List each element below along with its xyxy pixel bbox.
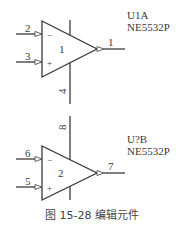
power-pin-number: 8 [56, 124, 68, 130]
plus-sign: + [47, 183, 52, 193]
part-number: 1 [59, 43, 65, 55]
figure-caption: 图 15-28 编辑元件 [0, 206, 184, 222]
minus-sign: − [47, 30, 52, 40]
part-name: NE5532P [127, 21, 170, 33]
minus-sign: − [47, 155, 52, 165]
inverting-pin-number: 6 [25, 147, 31, 159]
opamp-u-b[interactable]: 6 5 − + 2 7 8 U?B NE5532P [16, 116, 170, 200]
input-arrow-icon [35, 60, 42, 65]
part-name: NE5532P [127, 145, 170, 157]
part-number: 2 [58, 167, 64, 179]
input-arrow-icon [35, 32, 42, 37]
output-pin-number: 7 [108, 160, 114, 172]
input-arrow-icon [35, 185, 42, 190]
noninverting-pin-number: 5 [25, 175, 31, 187]
power-pin-number: 4 [56, 88, 68, 94]
output-pin-number: 1 [108, 36, 114, 48]
inverting-pin-number: 2 [25, 22, 31, 34]
designator: U1A [127, 9, 148, 21]
noninverting-pin-number: 3 [25, 50, 31, 62]
input-arrow-icon [35, 157, 42, 162]
schematic-canvas: 2 3 − + 1 1 4 U1A NE5532P 6 5 − + 2 7 8 … [0, 0, 184, 226]
designator: U?B [127, 133, 147, 145]
output-arrow-icon [97, 171, 104, 176]
plus-sign: + [47, 58, 52, 68]
output-arrow-icon [97, 47, 104, 52]
opamp-u1a[interactable]: 2 3 − + 1 1 4 U1A NE5532P [16, 9, 170, 104]
